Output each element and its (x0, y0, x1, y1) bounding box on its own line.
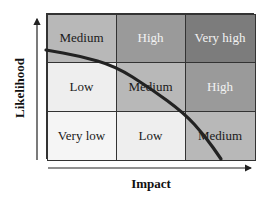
cell-r2c1: Low (47, 62, 117, 112)
y-axis-label: Likelihood (12, 58, 28, 118)
cell-r3c2: Low (116, 111, 186, 161)
cell-r1c1: Medium (47, 14, 117, 63)
x-axis-label: Impact (131, 176, 171, 192)
risk-matrix-grid: Medium High Very high Low Medium High Ve… (46, 13, 254, 159)
cell-r1c2: High (116, 14, 186, 63)
cell-r3c3: Medium (185, 111, 256, 161)
cell-r2c2: Medium (116, 62, 186, 112)
cell-r3c1: Very low (47, 111, 117, 161)
cell-r2c3: High (185, 62, 256, 112)
cell-r1c3: Very high (185, 14, 256, 63)
